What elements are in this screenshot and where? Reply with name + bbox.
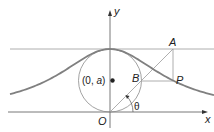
- y-axis-label: y: [113, 5, 121, 17]
- center-label: (0, a): [82, 75, 105, 86]
- point-a-label: A: [168, 36, 176, 48]
- center-point: [110, 78, 114, 82]
- y-axis-arrow-icon: [108, 10, 112, 16]
- point-b-label: B: [132, 72, 139, 84]
- witch-of-agnesi-diagram: y x O A B P θ (0, a): [0, 0, 214, 132]
- line-o-to-a: [110, 49, 173, 112]
- angle-theta-label: θ: [134, 101, 140, 112]
- x-axis-label: x: [204, 113, 211, 125]
- origin-label: O: [98, 115, 107, 127]
- point-p-label: P: [176, 74, 184, 86]
- witch-curve: [10, 49, 214, 95]
